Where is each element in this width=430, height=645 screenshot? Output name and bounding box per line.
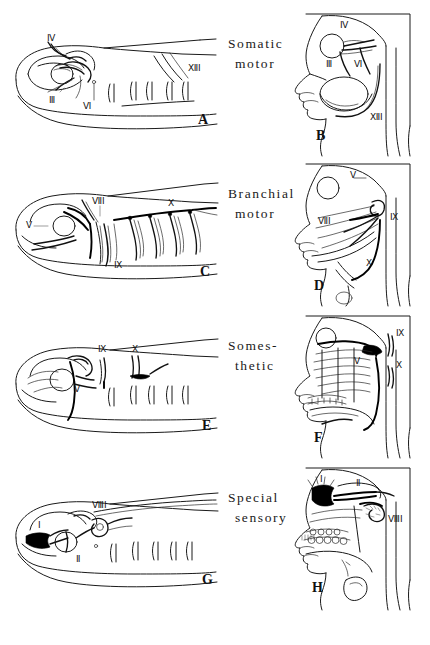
nerve-label-iv: Ⅳ — [47, 33, 56, 43]
nerve-label-viii: ⅧⅠ — [388, 514, 404, 524]
nerve-label-v: Ⅴ — [26, 220, 33, 230]
nerve-label-x: Ⅹ — [396, 360, 402, 370]
panel-e-fish-somesthetic: Ⅸ Ⅹ Ⅴ E — [4, 310, 222, 460]
nerve-label-vi: Ⅵ — [354, 59, 362, 69]
panel-a-fish-somatic-motor: Ⅳ Ⅲ Ⅵ ⅫⅠ A — [4, 8, 222, 158]
nerve-label-ix: Ⅸ — [98, 344, 106, 354]
nerve-label-iv: Ⅳ — [340, 20, 349, 30]
panel-letter-f: F — [314, 430, 323, 446]
nerve-label-xii: ⅫⅠ — [370, 112, 384, 122]
nerve-label-v: Ⅴ — [350, 170, 357, 180]
category-line-1: Somes- — [228, 338, 278, 353]
category-line-2: motor — [228, 54, 298, 74]
figure-row-somesthetic: Ⅸ Ⅹ Ⅴ E Somes- thetic — [0, 310, 430, 460]
panel-b-human-somatic-motor: Ⅳ Ⅲ Ⅵ ⅫⅠ B — [292, 8, 428, 158]
nerve-label-x: Ⅹ — [132, 344, 138, 354]
panel-c-fish-branchial-motor: Ⅴ ⅦⅠ Ⅸ Ⅹ C — [4, 158, 222, 308]
figure-page: Ⅳ Ⅲ Ⅵ ⅫⅠ A Somatic motor — [0, 0, 430, 645]
page-corner-mark — [402, 1, 424, 8]
panel-letter-d: D — [314, 278, 324, 294]
figure-row-special-sensory: Ⅰ Ⅱ ⅧⅠ G Special sensory — [0, 462, 430, 612]
nerve-label-iii: Ⅲ — [49, 95, 55, 105]
panel-d-human-branchial-motor: Ⅴ ⅦⅠ Ⅸ Ⅹ D — [292, 158, 428, 308]
nerve-label-i: Ⅰ — [320, 474, 323, 484]
panel-f-drawing: Ⅸ Ⅹ Ⅴ — [292, 310, 428, 460]
category-line-1: Branchial — [228, 186, 295, 201]
nerve-label-x: Ⅹ — [366, 258, 372, 268]
nerve-label-ix: Ⅸ — [114, 260, 122, 270]
panel-letter-h: H — [312, 580, 323, 596]
nerve-label-ii: Ⅱ — [76, 554, 80, 564]
nerve-label-iii: Ⅲ — [326, 59, 332, 69]
nerve-label-xii: ⅫⅠ — [188, 63, 202, 73]
category-label-somatic-motor: Somatic motor — [228, 34, 298, 73]
nerve-label-x: Ⅹ — [168, 198, 174, 208]
category-line-2: motor — [228, 204, 298, 224]
panel-f-human-somesthetic: Ⅸ Ⅹ Ⅴ F — [292, 310, 428, 460]
category-line-2: thetic — [228, 356, 298, 376]
nerve-label-i: Ⅰ — [38, 520, 41, 530]
category-line-1: Somatic — [228, 36, 283, 51]
figure-row-branchial-motor: Ⅴ ⅦⅠ Ⅸ Ⅹ C Branchial motor — [0, 158, 430, 308]
panel-g-drawing: Ⅰ Ⅱ ⅧⅠ — [4, 462, 222, 612]
nerve-label-vi: Ⅵ — [83, 101, 91, 111]
nerve-label-ix: Ⅸ — [390, 212, 398, 222]
panel-g-fish-special-sensory: Ⅰ Ⅱ ⅧⅠ G — [4, 462, 222, 612]
panel-letter-e: E — [202, 418, 211, 434]
nerve-label-ix: Ⅸ — [396, 328, 404, 338]
nerve-label-viii: ⅧⅠ — [92, 500, 108, 510]
panel-h-human-special-sensory: Ⅰ Ⅱ ⅧⅠ H — [292, 462, 428, 612]
category-label-branchial-motor: Branchial motor — [228, 184, 298, 223]
panel-c-drawing: Ⅴ ⅦⅠ Ⅸ Ⅹ — [4, 158, 222, 308]
panel-letter-c: C — [200, 264, 210, 280]
panel-e-drawing: Ⅸ Ⅹ Ⅴ — [4, 310, 222, 460]
panel-d-drawing: Ⅴ ⅦⅠ Ⅸ Ⅹ — [292, 158, 428, 308]
panel-letter-a: A — [198, 112, 208, 128]
panel-letter-b: B — [316, 128, 325, 144]
figure-row-somatic-motor: Ⅳ Ⅲ Ⅵ ⅫⅠ A Somatic motor — [0, 8, 430, 158]
category-label-special-sensory: Special sensory — [228, 488, 298, 527]
nerve-label-v: Ⅴ — [354, 356, 361, 366]
panel-letter-g: G — [202, 572, 213, 588]
nerve-label-v: Ⅴ — [74, 384, 81, 394]
panel-a-drawing: Ⅳ Ⅲ Ⅵ ⅫⅠ — [4, 8, 222, 158]
category-label-somesthetic: Somes- thetic — [228, 336, 298, 375]
nerve-label-vii: ⅦⅠ — [92, 196, 106, 206]
category-line-2: sensory — [228, 508, 298, 528]
nerve-label-vii: ⅦⅠ — [318, 216, 332, 226]
panel-b-drawing: Ⅳ Ⅲ Ⅵ ⅫⅠ — [292, 8, 428, 158]
nerve-label-ii: Ⅱ — [356, 478, 360, 488]
category-line-1: Special — [228, 490, 279, 505]
